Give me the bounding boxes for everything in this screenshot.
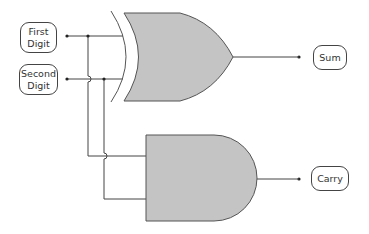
input-second-digit-line2: Digit bbox=[27, 80, 49, 92]
input-wires bbox=[67, 36, 146, 199]
input-first-digit-line1: First bbox=[29, 26, 49, 38]
and-gate bbox=[146, 135, 257, 221]
xor-input-arc bbox=[111, 11, 126, 102]
output-carry-label: Carry bbox=[317, 173, 343, 185]
dot-first-start bbox=[65, 34, 68, 37]
and-gate-body bbox=[146, 135, 257, 221]
dot-first-junction bbox=[86, 34, 89, 37]
input-first-digit-line2: Digit bbox=[27, 38, 49, 50]
input-second-digit: Second Digit bbox=[19, 64, 58, 95]
xor-gate bbox=[111, 11, 233, 102]
dot-second-start bbox=[65, 77, 68, 80]
output-sum-label: Sum bbox=[319, 52, 340, 64]
input-second-digit-line1: Second bbox=[21, 68, 56, 80]
dot-second-junction bbox=[102, 77, 105, 80]
output-carry: Carry bbox=[311, 166, 349, 191]
xor-gate-body bbox=[124, 13, 233, 101]
input-first-digit: First Digit bbox=[20, 22, 57, 53]
output-sum: Sum bbox=[313, 45, 347, 70]
